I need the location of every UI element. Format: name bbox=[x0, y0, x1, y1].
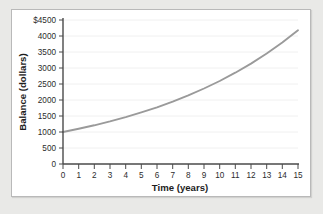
x-tick-label-10: 10 bbox=[215, 171, 225, 180]
x-tick-label-2: 2 bbox=[92, 171, 97, 180]
data-series-balance bbox=[63, 30, 298, 132]
chart-card: $4500 4000 3500 3000 2500 2000 1500 1000… bbox=[11, 9, 311, 197]
y-tick-label-1000: 1000 bbox=[38, 128, 57, 137]
x-tick-label-11: 11 bbox=[231, 171, 240, 180]
y-tick-label-2500: 2500 bbox=[38, 80, 57, 89]
x-tick-label-4: 4 bbox=[123, 171, 128, 180]
x-tick-label-15: 15 bbox=[293, 171, 303, 180]
y-axis-title: Balance (dollars) bbox=[17, 53, 28, 130]
x-tick-label-9: 9 bbox=[202, 171, 207, 180]
x-tick-label-0: 0 bbox=[61, 171, 66, 180]
y-tick-label-2000: 2000 bbox=[38, 96, 57, 105]
balance-curve bbox=[63, 30, 298, 132]
x-tick-label-6: 6 bbox=[155, 171, 160, 180]
x-tick-label-1: 1 bbox=[76, 171, 81, 180]
x-tick-label-13: 13 bbox=[262, 171, 272, 180]
y-tick-label-1500: 1500 bbox=[38, 112, 57, 121]
screenshot-root: $4500 4000 3500 3000 2500 2000 1500 1000… bbox=[0, 0, 323, 214]
x-tick-label-8: 8 bbox=[186, 171, 191, 180]
y-tick-label-500: 500 bbox=[42, 144, 56, 153]
x-tick-label-14: 14 bbox=[278, 171, 288, 180]
x-tick-label-5: 5 bbox=[139, 171, 144, 180]
x-axis-title: Time (years) bbox=[152, 182, 208, 193]
y-tick-label-4500: $4500 bbox=[33, 16, 56, 25]
x-axis: 0 1 2 3 4 5 6 7 8 9 10 11 12 13 14 15 bbox=[61, 164, 303, 180]
y-axis: $4500 4000 3500 3000 2500 2000 1500 1000… bbox=[33, 16, 63, 169]
y-tick-label-4000: 4000 bbox=[38, 32, 57, 41]
x-tick-label-3: 3 bbox=[108, 171, 113, 180]
x-tick-label-12: 12 bbox=[246, 171, 256, 180]
gridlines bbox=[63, 20, 298, 148]
y-tick-label-3000: 3000 bbox=[38, 64, 57, 73]
y-tick-label-0: 0 bbox=[51, 160, 56, 169]
y-tick-label-3500: 3500 bbox=[38, 48, 57, 57]
balance-over-time-chart: $4500 4000 3500 3000 2500 2000 1500 1000… bbox=[12, 10, 310, 196]
x-tick-label-7: 7 bbox=[170, 171, 175, 180]
